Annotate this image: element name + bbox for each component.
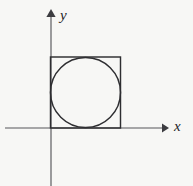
x-axis-label: x [173, 118, 181, 134]
x-axis-arrowhead [162, 123, 169, 132]
y-axis-label: y [58, 7, 67, 23]
geometry-figure: x y [0, 0, 193, 186]
y-axis-arrowhead [46, 9, 55, 17]
figure-svg: x y [0, 0, 193, 186]
inscribed-circle-shape [51, 58, 121, 128]
